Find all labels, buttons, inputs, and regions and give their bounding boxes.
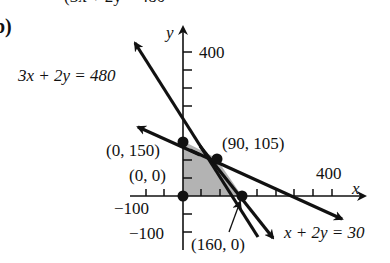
label-x-2y-300: x + 2y = 30	[284, 224, 365, 241]
vertex-0-150	[178, 137, 189, 148]
part-marker: b)	[0, 16, 12, 36]
x-axis-label: x	[352, 180, 360, 197]
partial-equation: (3x + 2y = 480	[64, 0, 165, 5]
label-vertex-160-0: (160, 0)	[191, 236, 245, 253]
y-tick-neg-100: −100	[129, 225, 164, 242]
y-tick-400: 400	[199, 44, 225, 61]
vertex-90-105	[212, 154, 223, 165]
label-vertex-90-105: (90, 105)	[222, 135, 284, 152]
label-vertex-0-0: (0, 0)	[129, 167, 166, 184]
pointer-arrow	[229, 202, 240, 232]
x-tick-400: 400	[316, 165, 342, 182]
label-vertex-0-150: (0, 150)	[106, 142, 160, 159]
label-3x-2y-480: 3x + 2y = 480	[18, 67, 116, 84]
vertex-160-0	[237, 191, 248, 202]
vertex-0-0	[178, 191, 189, 202]
y-axis-label: y	[166, 24, 174, 41]
x-tick-neg-100: −100	[114, 200, 149, 217]
